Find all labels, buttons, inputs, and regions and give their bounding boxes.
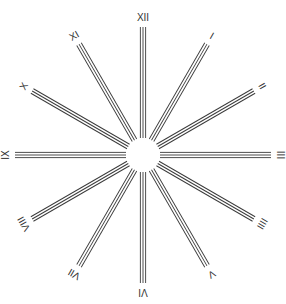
hour-ray (156, 89, 255, 149)
clock-dial-diagram: XIIIIIIIIIIIIVVIVIIVIIIIXXXI (0, 0, 286, 304)
hour-ray (31, 89, 130, 149)
hour-label: XI (67, 28, 81, 42)
hour-label: V (206, 268, 218, 281)
hour-ray (149, 168, 209, 267)
hour-ray (77, 43, 137, 142)
hour-label: IIII (255, 216, 270, 231)
hour-ray (77, 168, 137, 267)
hour-ray (15, 152, 126, 157)
hour-label: IX (0, 150, 11, 160)
hour-ray (140, 27, 145, 138)
hour-ray (156, 161, 255, 221)
hour-ray (149, 43, 209, 142)
hour-label: XII (137, 12, 149, 23)
hour-label: X (17, 80, 30, 92)
hour-label: VII (66, 267, 82, 283)
hour-label: III (275, 151, 286, 159)
hour-rays (15, 27, 271, 283)
hour-ray (31, 161, 130, 221)
hour-label: VI (138, 287, 147, 298)
hour-ray (140, 172, 145, 283)
hour-label: VIII (15, 215, 32, 234)
hour-label: I (208, 30, 216, 41)
hour-label: II (256, 81, 268, 91)
hour-ray (160, 152, 271, 157)
